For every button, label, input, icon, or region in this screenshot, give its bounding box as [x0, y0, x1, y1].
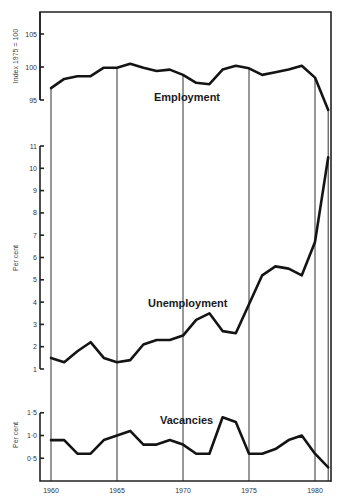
vacancies-y-ticks: 0·51·01·5	[27, 409, 44, 462]
y-tick-label: 1·0	[27, 432, 37, 439]
plot-frame	[40, 12, 331, 482]
employment-y-ticks: 95100105	[25, 31, 44, 104]
y-tick-label: 4	[33, 299, 37, 306]
unemployment-y-ticks: 1234567891011	[29, 143, 44, 373]
vacancies-series-label: Vacancies	[160, 414, 213, 426]
x-tick-label: 1960	[43, 487, 59, 494]
x-tick-label: 1980	[307, 487, 323, 494]
x-tick-label: 1970	[175, 487, 191, 494]
y-tick-label: 95	[29, 97, 37, 104]
employment-panel: 95100105 Index 1975 = 100 Employment	[12, 12, 328, 110]
y-tick-label: 0·5	[27, 455, 37, 462]
unemployment-panel: 1234567891011 Per cent Unemployment	[12, 143, 328, 373]
y-tick-label: 3	[33, 321, 37, 328]
x-axis-tick-labels: 19601965197019751980	[43, 487, 323, 494]
y-tick-label: 100	[25, 64, 37, 71]
frame-outline	[40, 12, 331, 482]
unemployment-series-line	[51, 157, 328, 362]
y-tick-label: 10	[29, 165, 37, 172]
vacancies-y-axis-title: Per cent	[12, 422, 19, 448]
unemployment-series-label: Unemployment	[148, 297, 228, 309]
y-tick-label: 5	[33, 276, 37, 283]
x-tick-label: 1965	[109, 487, 125, 494]
employment-y-axis-title: Index 1975 = 100	[12, 29, 19, 83]
vacancies-panel: 0·51·01·5 Per cent Vacancies	[12, 409, 331, 481]
y-tick-label: 1·5	[27, 409, 37, 416]
y-tick-label: 1	[33, 366, 37, 373]
y-tick-label: 9	[33, 187, 37, 194]
y-tick-label: 2	[33, 343, 37, 350]
unemployment-y-axis-title: Per cent	[12, 245, 19, 271]
labour-market-chart: 95100105 Index 1975 = 100 Employment 123…	[0, 0, 339, 501]
x-tick-label: 1975	[241, 487, 257, 494]
y-tick-label: 8	[33, 209, 37, 216]
y-tick-label: 7	[33, 232, 37, 239]
y-tick-label: 105	[25, 31, 37, 38]
y-tick-label: 11	[30, 143, 37, 150]
y-tick-label: 6	[33, 254, 37, 261]
employment-series-label: Employment	[154, 91, 220, 103]
